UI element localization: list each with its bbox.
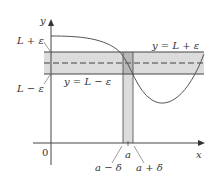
a-label: a (125, 150, 131, 160)
x-axis-label: x (196, 150, 202, 160)
x-axis-arrow (198, 140, 205, 146)
lower-line-label: y = L − ε (64, 77, 111, 87)
origin-label: 0 (42, 148, 48, 158)
a-plus-delta-label: a + δ (136, 163, 163, 173)
pointer-lower (44, 75, 50, 84)
upper-y-label: L + ε (17, 36, 44, 46)
pointer-left-delta (112, 146, 122, 163)
y-axis-label: y (40, 16, 46, 26)
pointer-right-delta (134, 146, 144, 163)
y-axis-arrow (48, 19, 54, 26)
pointer-upper (44, 42, 50, 51)
upper-line-label: y = L + ε (152, 41, 199, 51)
a-minus-delta-label: a − δ (95, 163, 122, 173)
lower-y-label: L − ε (17, 84, 44, 94)
